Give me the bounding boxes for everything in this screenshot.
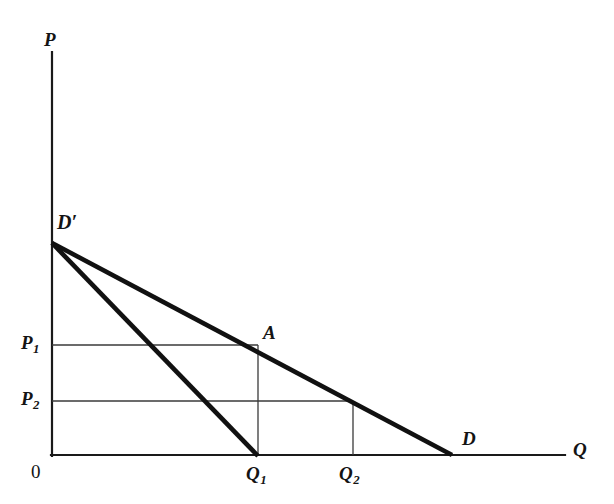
price-p1-letter: P <box>21 332 33 353</box>
price-p1-subscript: 1 <box>33 341 39 356</box>
price-p2-letter: P <box>21 388 33 409</box>
y-axis-label: P <box>44 30 56 49</box>
demand-curve-d <box>52 243 452 455</box>
x-axis-label: Q <box>573 440 587 459</box>
quantity-q1-letter: Q <box>246 463 260 484</box>
price-p2-subscript: 2 <box>33 397 39 412</box>
point-a-label: A <box>263 323 276 342</box>
origin-label: 0 <box>31 462 41 481</box>
demand-curve-d-prime-label: D′ <box>57 212 77 232</box>
quantity-q2-letter: Q <box>339 463 353 484</box>
d-prime-letter: D <box>57 211 71 233</box>
price-p2-label: P2 <box>21 389 40 412</box>
demand-curve-d-prime <box>52 243 258 456</box>
quantity-q1-subscript: 1 <box>260 472 266 487</box>
quantity-q1-label: Q1 <box>246 464 267 487</box>
demand-curve-d-label: D <box>462 429 476 448</box>
price-p1-label: P1 <box>21 333 40 356</box>
figure-canvas <box>0 0 614 504</box>
d-prime-mark: ′ <box>71 211 77 233</box>
quantity-q2-label: Q2 <box>339 464 360 487</box>
demand-curve-figure: P Q 0 D′ D A P1 P2 Q1 Q2 <box>0 0 614 504</box>
quantity-q2-subscript: 2 <box>353 472 359 487</box>
